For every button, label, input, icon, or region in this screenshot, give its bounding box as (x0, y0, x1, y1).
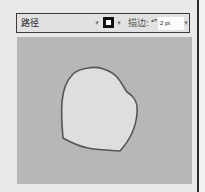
stroke-weight-stepper-icon[interactable]: ▴▾ (151, 17, 157, 29)
artboard-canvas[interactable] (17, 37, 192, 184)
fill-dropdown-chevron-down-icon[interactable]: ▾ (93, 18, 101, 28)
stroke-label: 描边: (128, 17, 149, 29)
path-shape-svg (17, 37, 192, 184)
window-border (197, 0, 199, 192)
selection-type-label: 路径 (21, 17, 39, 29)
swatch-inner (106, 20, 111, 25)
window-edge (199, 0, 205, 192)
stroke-color-chevron-down-icon[interactable]: ▾ (115, 18, 123, 28)
control-toolbar: 路径 ▾ ▾ 描边: ▴▾ ▾ (16, 13, 190, 33)
stroke-weight-input[interactable] (158, 17, 184, 30)
stroke-weight-chevron-down-icon[interactable]: ▾ (182, 18, 190, 28)
selected-path-shape[interactable] (62, 67, 138, 151)
stroke-swatch-icon[interactable] (103, 17, 114, 28)
